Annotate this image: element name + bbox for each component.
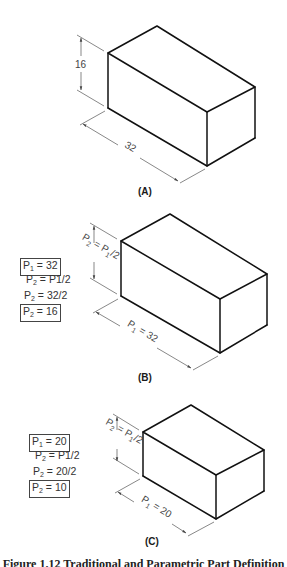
panel-c-equation-substitution: P2 = 20/2 — [33, 465, 76, 481]
panel-b-label: (B) — [138, 372, 152, 383]
figure-caption: Figure 1.12 Traditional and Parametric P… — [0, 556, 287, 567]
panel-c-label: (C) — [145, 536, 159, 547]
panel-b-length-dimension: P1 = 32 — [93, 299, 218, 370]
panel-a-height-dimension: 16 — [75, 35, 104, 106]
panel-b-height-label: P2 = P1/2 — [80, 231, 122, 263]
panel-b-equation-relation: P2 = P1/2 — [26, 273, 71, 289]
panel-a-label: (A) — [138, 186, 152, 197]
panel-a-height-label: 16 — [75, 59, 87, 70]
panel-a-length-dimension: 32 — [80, 111, 205, 183]
panel-a-length-label: 32 — [123, 139, 139, 154]
panel-b-length-label: P1 = 32 — [125, 318, 160, 346]
panel-c-equation-relation: P2 = P1/2 — [35, 449, 80, 465]
panel-c-equation-result: P2 = 10 — [29, 480, 70, 498]
panel-c-length-dimension: P1 = 20 — [115, 479, 214, 536]
panel-b-height-dimension: P2 = P1/2 — [80, 223, 122, 294]
panel-b-equation-substitution: P2 = 32/2 — [24, 289, 67, 305]
panel-c-height-dimension: P2 = P1/2 — [103, 414, 145, 474]
panel-b-equation-result: P2 = 16 — [20, 304, 61, 322]
panel-c-length-label: P1 = 20 — [139, 493, 174, 521]
